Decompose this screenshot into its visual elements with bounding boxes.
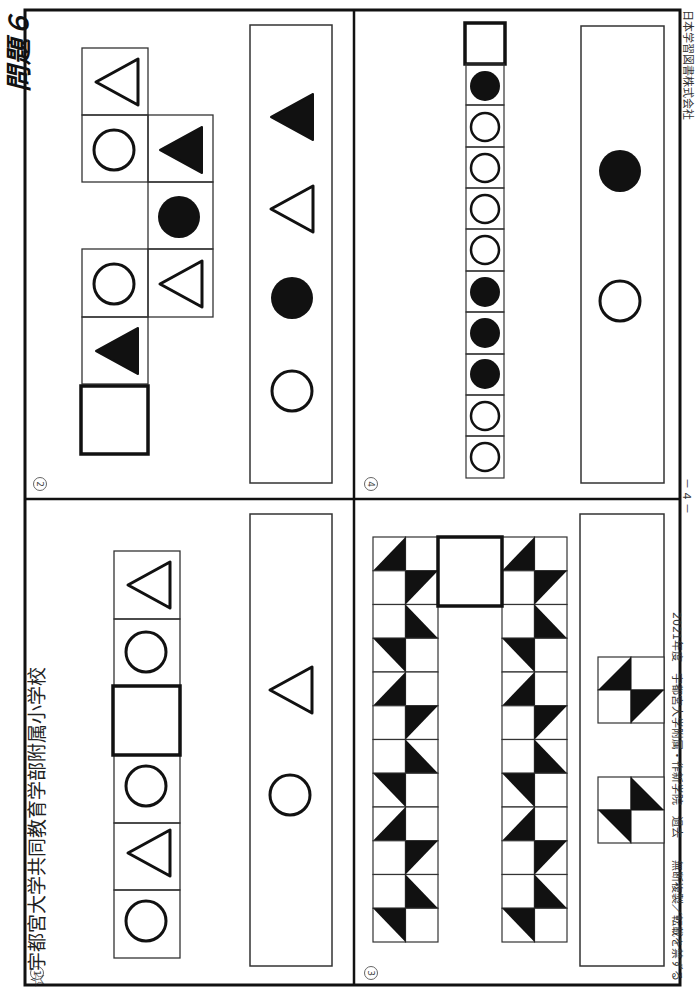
- svg-text:2: 2: [35, 481, 45, 487]
- svg-text:3: 3: [366, 970, 376, 976]
- choices-box-3: [580, 514, 664, 966]
- answer-blank-square[interactable]: [465, 23, 505, 64]
- choice-tile-pattern-a[interactable]: [598, 657, 664, 723]
- choices-box-4: [581, 26, 664, 483]
- svg-text:4: 4: [366, 481, 376, 487]
- choice-circle-outline[interactable]: [272, 371, 312, 411]
- page-number: － 4 －: [680, 478, 696, 514]
- panel-number-4: 4: [365, 478, 378, 491]
- panel-2: 2: [34, 25, 333, 491]
- choice-triangle-outline[interactable]: [270, 667, 312, 713]
- choice-circle-outline[interactable]: [270, 775, 310, 815]
- panel-3: 3: [365, 514, 665, 980]
- choice-triangle-outline[interactable]: [271, 186, 313, 232]
- answer-blank-square[interactable]: [81, 386, 148, 454]
- panel-1: 1: [31, 514, 333, 980]
- choice-circle-outline[interactable]: [600, 281, 640, 321]
- choice-tile-pattern-b[interactable]: [598, 777, 664, 843]
- publisher-name: 日本学習図書株式会社: [681, 10, 697, 120]
- choice-triangle-filled[interactable]: [271, 94, 313, 140]
- panel-4: 4: [365, 23, 665, 491]
- answer-blank-square[interactable]: [438, 537, 502, 606]
- panel-number-2: 2: [34, 478, 47, 491]
- school-title: ☆宇都宮大学共同教育学部附属小学校: [22, 667, 49, 988]
- answer-blank-square[interactable]: [113, 686, 180, 755]
- choices-box-1: [250, 514, 332, 966]
- panel-number-3: 3: [365, 967, 378, 980]
- worksheet-page: 2 4: [0, 0, 699, 989]
- choice-circle-filled[interactable]: [599, 150, 641, 192]
- problem-label: 問題６: [0, 11, 35, 92]
- footer-copyright: 2021年度 宇都宮大学附属・作新学院 過去 無断複製／転載を禁ずる: [670, 612, 686, 981]
- choice-circle-filled[interactable]: [271, 277, 313, 319]
- choices-box-2: [250, 25, 332, 483]
